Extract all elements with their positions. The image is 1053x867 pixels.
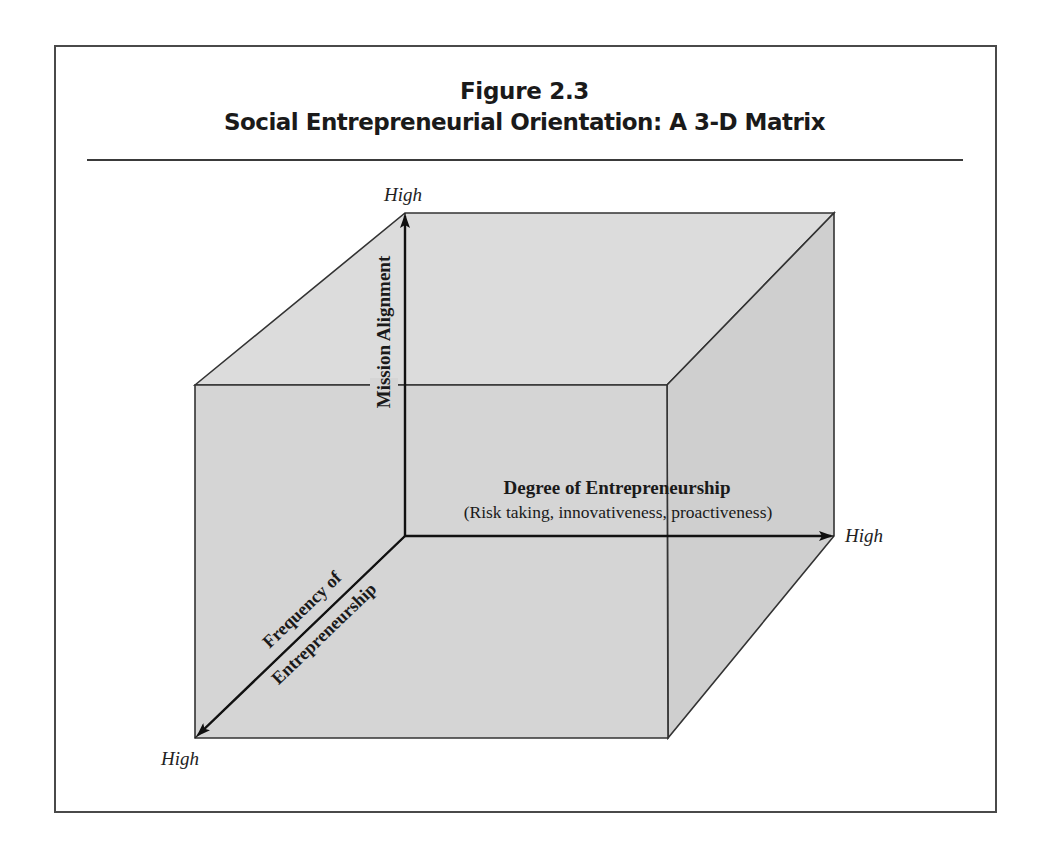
horizontal-axis-high-label: High xyxy=(844,525,883,546)
cube-front-face xyxy=(195,385,668,738)
horizontal-axis-sublabel: (Risk taking, innovativeness, proactiven… xyxy=(464,502,773,522)
vertical-axis-label: Mission Alignment xyxy=(373,255,394,408)
cube-diagram: Mission Alignment High Degree of Entrepr… xyxy=(0,0,1053,867)
horizontal-axis-label: Degree of Entrepreneurship xyxy=(504,477,731,498)
depth-axis-high-label: High xyxy=(160,748,199,769)
vertical-axis-high-label: High xyxy=(383,184,422,205)
